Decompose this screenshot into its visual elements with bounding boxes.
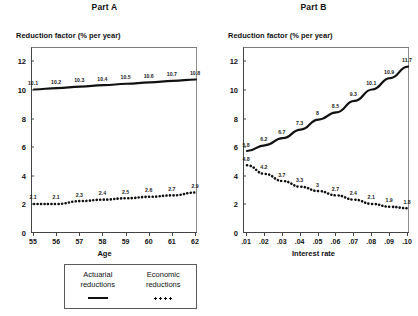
legend-economic-label-line2: reductions (131, 280, 197, 290)
legend-economic-label-line1: Economic (131, 270, 197, 280)
chart-panel-part-a: Part A Reduction factor (% per year) 024… (0, 0, 209, 260)
actuarial-reductions-line (247, 67, 408, 151)
panel-b-title: Part B (209, 2, 418, 12)
panel-b-x-axis-title: Interest rate (209, 249, 418, 258)
data-point-label: 2.4 (350, 190, 357, 196)
data-point-label: 2.7 (168, 186, 175, 192)
data-point-label: 2.3 (76, 192, 83, 198)
data-point-label: 10.1 (28, 80, 38, 86)
y-tick-mark (243, 175, 246, 176)
legend-item-actuarial: Actuarial reductions (65, 270, 131, 308)
x-tick-mark (264, 233, 265, 236)
legend-solid-line-swatch (65, 294, 131, 302)
y-tick-mark (31, 118, 34, 119)
y-tick-mark (243, 89, 246, 90)
y-tick-mark (243, 118, 246, 119)
data-point-label: 2.4 (99, 190, 106, 196)
data-point-label: 3.7 (278, 172, 285, 178)
data-point-label: 4.2 (260, 164, 267, 170)
x-tick-mark (33, 233, 34, 236)
y-tick-label: 0 (10, 229, 26, 238)
y-tick-mark (31, 204, 34, 205)
data-point-label: 2.7 (332, 186, 339, 192)
data-point-label: 3 (316, 182, 319, 188)
y-tick-mark (31, 147, 34, 148)
x-tick-mark (353, 233, 354, 236)
data-point-label: 10.4 (97, 76, 107, 82)
y-tick-label: 12 (222, 57, 238, 66)
y-tick-label: 6 (10, 143, 26, 152)
data-point-label: 6.2 (260, 136, 267, 142)
data-point-label: 2.9 (191, 183, 198, 189)
x-tick-label: 60 (138, 238, 160, 245)
panel-b-y-axis-title: Reduction factor (% per year) (228, 31, 333, 40)
y-tick-label: 4 (10, 171, 26, 180)
y-tick-label: 12 (10, 57, 26, 66)
y-tick-mark (31, 175, 34, 176)
data-point-label: 2.6 (145, 187, 152, 193)
data-point-label: 10.5 (121, 74, 131, 80)
data-point-label: 10.6 (144, 73, 154, 79)
x-tick-mark (407, 233, 408, 236)
data-point-label: 2.1 (53, 194, 60, 200)
x-tick-label: 62 (184, 238, 206, 245)
data-point-label: 8 (316, 110, 319, 116)
data-point-label: 10.2 (51, 79, 61, 85)
x-tick-label: .10 (396, 238, 418, 245)
panel-a-x-axis-title: Age (0, 249, 209, 258)
data-point-label: 1.9 (386, 197, 393, 203)
y-tick-mark (31, 89, 34, 90)
x-tick-mark (371, 233, 372, 236)
data-point-label: 7.3 (296, 120, 303, 126)
y-tick-mark (243, 204, 246, 205)
data-point-label: 1.8 (403, 199, 410, 205)
x-tick-label: 59 (115, 238, 137, 245)
x-tick-mark (282, 233, 283, 236)
data-point-label: 5.8 (242, 142, 249, 148)
data-point-label: 2.1 (368, 194, 375, 200)
economic-reductions-line (247, 165, 408, 208)
x-tick-mark (300, 233, 301, 236)
x-tick-label: 56 (45, 238, 67, 245)
data-point-label: 10.3 (74, 77, 84, 83)
y-tick-label: 2 (10, 200, 26, 209)
x-tick-mark (149, 233, 150, 236)
x-tick-mark (126, 233, 127, 236)
panel-b-plot-area (243, 47, 409, 233)
x-tick-mark (79, 233, 80, 236)
chart-panel-part-b: Part B Reduction factor (% per year) 024… (209, 0, 418, 260)
x-tick-mark (172, 233, 173, 236)
data-point-label: 2.5 (122, 189, 129, 195)
panel-b-series-layer (244, 48, 410, 234)
data-point-label: 11.7 (402, 57, 412, 63)
data-point-label: 2.1 (29, 194, 36, 200)
x-tick-mark (335, 233, 336, 236)
chart-legend: Actuarial reductions Economic reductions (64, 264, 197, 309)
legend-actuarial-label-line1: Actuarial (65, 270, 131, 280)
data-point-label: 4.8 (242, 156, 249, 162)
data-point-label: 10.8 (190, 70, 200, 76)
legend-item-economic: Economic reductions (131, 270, 197, 308)
x-tick-mark (56, 233, 57, 236)
panel-a-title: Part A (0, 2, 209, 12)
x-tick-mark (318, 233, 319, 236)
y-tick-label: 10 (222, 85, 238, 94)
x-tick-mark (389, 233, 390, 236)
x-tick-label: 57 (68, 238, 90, 245)
x-tick-mark (246, 233, 247, 236)
y-tick-label: 0 (222, 229, 238, 238)
x-tick-label: 58 (91, 238, 113, 245)
data-point-label: 10.1 (366, 80, 376, 86)
data-point-label: 6.7 (278, 129, 285, 135)
y-tick-mark (31, 61, 34, 62)
panel-a-y-axis-title: Reduction factor (% per year) (16, 31, 121, 40)
data-point-label: 9.3 (350, 91, 357, 97)
legend-actuarial-label-line2: reductions (65, 280, 131, 290)
y-tick-label: 8 (222, 114, 238, 123)
y-tick-label: 6 (222, 143, 238, 152)
data-point-label: 8.5 (332, 103, 339, 109)
data-point-label: 10.9 (384, 69, 394, 75)
y-tick-label: 8 (10, 114, 26, 123)
x-tick-mark (195, 233, 196, 236)
legend-dotted-line-swatch (131, 294, 197, 302)
